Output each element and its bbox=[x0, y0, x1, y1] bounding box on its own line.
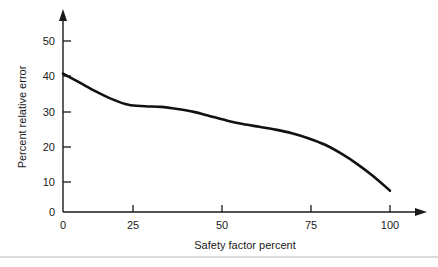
y-tick-label-40: 40 bbox=[43, 70, 55, 82]
x-tick-label-25: 25 bbox=[127, 219, 139, 231]
chart-svg: 50 40 30 20 10 0 0 25 50 75 100 Safety f… bbox=[0, 0, 438, 267]
y-axis-title: Percent relative error bbox=[16, 65, 28, 168]
data-curve-line bbox=[63, 74, 390, 191]
y-tick-label-20: 20 bbox=[43, 141, 55, 153]
y-tick-label-30: 30 bbox=[43, 106, 55, 118]
chart-figure: 50 40 30 20 10 0 0 25 50 75 100 Safety f… bbox=[0, 0, 438, 267]
y-tick-label-50: 50 bbox=[43, 35, 55, 47]
x-tick-label-75: 75 bbox=[305, 219, 317, 231]
y-tick-label-10: 10 bbox=[43, 176, 55, 188]
y-axis-arrow-up-icon bbox=[59, 9, 67, 21]
x-axis-arrow-right-icon bbox=[415, 208, 427, 216]
y-tick-label-0: 0 bbox=[49, 206, 55, 218]
x-tick-label-100: 100 bbox=[381, 219, 399, 231]
x-tick-label-0: 0 bbox=[60, 219, 66, 231]
x-tick-label-50: 50 bbox=[216, 219, 228, 231]
x-axis-title: Safety factor percent bbox=[194, 239, 296, 251]
